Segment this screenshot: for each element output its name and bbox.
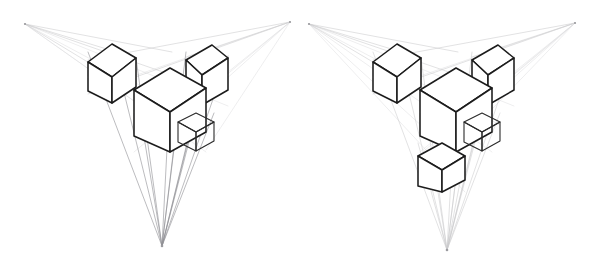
vanishing-point-right-marker	[574, 22, 576, 24]
three-point-perspective-diagram-right	[302, 0, 605, 260]
vanishing-point-bottom-marker	[446, 249, 449, 252]
illustration-canvas	[0, 0, 605, 260]
vanishing-point-left-marker	[308, 23, 310, 25]
three-point-perspective-diagram-left	[0, 0, 303, 260]
cube-upper-left	[88, 44, 136, 103]
vanishing-point-right-marker	[289, 21, 291, 23]
vanishing-point-bottom-marker	[161, 245, 164, 248]
cube-upper-left	[373, 44, 421, 103]
vanishing-point-left-marker	[24, 23, 26, 25]
